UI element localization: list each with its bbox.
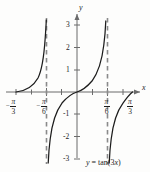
- x-axis-label: x: [142, 84, 146, 92]
- y-tick-label-neg3: -3: [63, 155, 69, 163]
- minus-sign: −: [6, 102, 10, 111]
- y-tick-label-3: 3: [66, 21, 70, 29]
- fraction-numerator: π: [104, 98, 110, 106]
- x-tick-label-neg-pi-over-3: − π 3: [6, 98, 16, 115]
- x-tick-label-pi-over-6: π 6: [104, 98, 110, 115]
- equation-close-paren: ): [118, 158, 121, 167]
- y-tick-label-neg1: -1: [63, 110, 69, 118]
- equation-operator: = tan(3: [90, 158, 115, 167]
- fraction-denominator: 3: [128, 108, 132, 116]
- tangent-function-figure: y x 3 2 1 -1 -2 -3 − π 3 − π 6 π 6 π: [0, 0, 150, 172]
- fraction-numerator: π: [11, 98, 17, 106]
- y-tick-label-neg2: -2: [63, 133, 69, 141]
- y-tick-label-1: 1: [66, 66, 70, 74]
- y-tick-label-2: 2: [66, 44, 70, 52]
- x-tick-label-pi-over-3: π 3: [127, 98, 133, 115]
- fraction-numerator: π: [41, 98, 47, 106]
- y-axis-label: y: [79, 4, 83, 12]
- fraction-denominator: 6: [42, 108, 46, 116]
- fraction-denominator: 6: [105, 108, 109, 116]
- equation-annotation: y = tan(3x): [86, 158, 121, 167]
- minus-sign: −: [37, 102, 41, 111]
- plot-canvas: [0, 0, 150, 172]
- curve-branch-left: [16, 20, 46, 92]
- fraction-denominator: 3: [12, 108, 16, 116]
- x-tick-label-neg-pi-over-6: − π 6: [37, 98, 47, 115]
- fraction-numerator: π: [127, 98, 133, 106]
